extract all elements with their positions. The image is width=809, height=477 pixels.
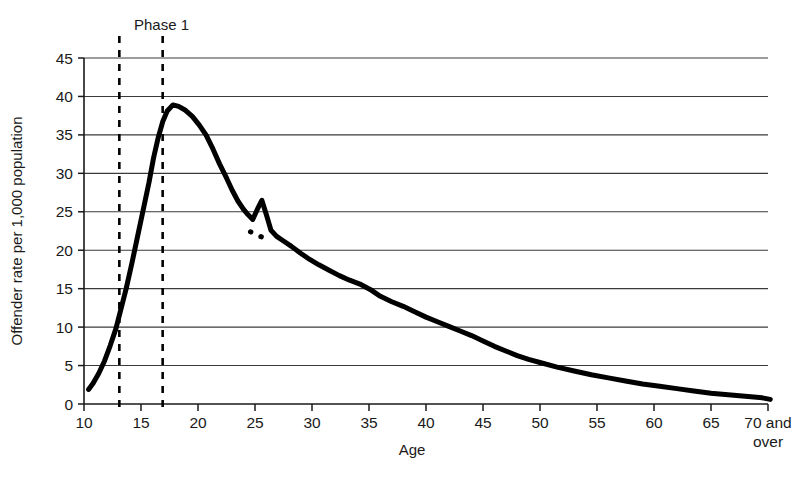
y-axis-tick-label: 15	[56, 280, 73, 297]
x-axis-tick-label: 50	[531, 414, 549, 431]
x-axis-tick-label: 15	[132, 414, 149, 431]
x-axis-tick-label: 55	[588, 414, 605, 431]
y-axis-tick-label: 30	[56, 165, 74, 182]
chart-figure: 051015202530354045 101520253035404550556…	[0, 0, 809, 477]
y-axis-tick-label: 45	[56, 50, 73, 67]
y-axis-tick-label: 35	[56, 126, 73, 143]
y-axis-tick-label: 10	[56, 319, 74, 336]
chart-background	[0, 0, 809, 477]
phase-1-annotation-label: Phase 1	[134, 16, 189, 33]
y-axis-title: Offender rate per 1,000 population	[8, 116, 25, 345]
x-axis-tick-label: 30	[303, 414, 321, 431]
x-axis-tick-label: 60	[645, 414, 663, 431]
x-axis-tick-label: 20	[189, 414, 207, 431]
x-axis-tick-label: 70 and	[744, 414, 791, 431]
x-axis-title: Age	[399, 441, 426, 458]
x-axis-tick-label: 65	[702, 414, 719, 431]
y-axis-tick-label: 20	[56, 242, 74, 259]
offender-rate-by-age-line-chart: 051015202530354045 101520253035404550556…	[0, 0, 809, 477]
y-axis-tick-label: 40	[56, 88, 74, 105]
y-axis-tick-label: 25	[56, 203, 73, 220]
y-axis-tick-label: 5	[64, 357, 73, 374]
y-axis-tick-label: 0	[64, 396, 73, 413]
x-axis-tick-label: 45	[474, 414, 491, 431]
x-axis-tick-label: 40	[417, 414, 435, 431]
x-axis-tick-label: 25	[246, 414, 263, 431]
x-axis-tick-label-line2: over	[753, 433, 783, 450]
x-axis-tick-label: 10	[75, 414, 93, 431]
x-axis-tick-label: 35	[360, 414, 377, 431]
